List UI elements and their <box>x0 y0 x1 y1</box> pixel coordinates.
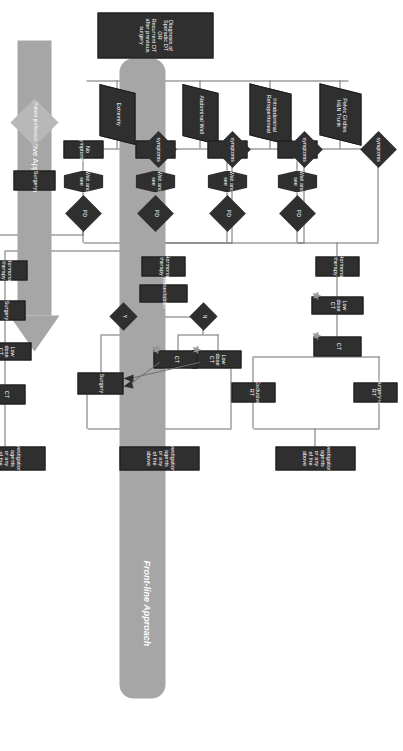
abdwall-pd-label: PD <box>152 209 158 216</box>
abdwall-low-dose-ct-label: Low dose CT <box>0 344 14 358</box>
star-icon-intra-ct: ★ <box>150 344 161 354</box>
pelvic-surgery-rt-out <box>378 402 379 428</box>
pelvic-merge-vertical <box>253 428 379 429</box>
intra-y-to-surgery <box>100 334 101 372</box>
extremity-symptoms-label: symptoms <box>155 137 161 161</box>
intra-pd-label: PD <box>224 209 230 216</box>
pelvic-pd-label: PD <box>294 209 300 216</box>
pelvic-surgery-rt-label: Surgery+/-RT <box>369 379 381 405</box>
intra-hormonal-line2: therapy <box>157 257 163 276</box>
site-label-abdominal-wall: Abdominal Wall <box>182 84 218 145</box>
pelvic-branch-up <box>378 356 379 382</box>
abdwall-hormonal-line2: therapy <box>0 261 5 280</box>
pelvic-hormonal-to-lowdose <box>336 276 337 296</box>
abdwall-inv-line2: or any of the above <box>0 448 8 468</box>
abdwall-low-dose-ct-box: Low dose CT <box>0 342 31 360</box>
intra-surgery-box: Surgery <box>77 372 123 394</box>
abdwall-inv-line1: Investigational agents <box>8 440 20 476</box>
intra-surgery-label: Surgery <box>97 373 103 393</box>
pelvic-symptoms-to-line <box>377 162 378 242</box>
intra-no-diamond: N <box>189 302 217 330</box>
root-diagnosis-box: Diagnosis of Sporadic DT OR Recurrent DT… <box>97 12 213 58</box>
intra-wait-and-see-hex: Wait and see <box>207 170 247 192</box>
site-extremity-label: Extremity <box>114 102 120 125</box>
star-icon-intra-low-dose-ct: ★ <box>190 344 201 354</box>
pelvic-hormonal-therapy-box: Hormonal therapy <box>315 256 359 276</box>
abdwall-split-in <box>199 140 200 148</box>
abdwall-ct-box: CT <box>0 384 25 404</box>
pelvic-symptoms-diamond: symptoms <box>360 131 397 168</box>
star-icon-pelvic-low-dose-ct: ★ <box>310 290 321 300</box>
abdwall-lowdose-to-ct <box>4 360 5 384</box>
site-pelvic-line2: H&N Trunk <box>334 100 340 127</box>
intra-resectable-box: Resectable? <box>139 284 187 302</box>
star-icon-pelvic-ct: ★ <box>310 330 321 340</box>
surgery-preference-box: Surgery <box>13 170 55 190</box>
intra-hormonal-therapy-box: Hormonal therapy <box>141 256 185 276</box>
extremity-ws-line2: see <box>77 177 83 186</box>
intra-investigational-box: Investigational agents or any of the abo… <box>119 446 199 470</box>
abdwall-ws-line2: see <box>149 177 155 186</box>
site-label-pelvic-girdles: Pelvic Girdles H&N Trunk <box>319 83 361 145</box>
pelvic-pd-diamond: PD <box>279 195 316 232</box>
pelvic-symptoms-label: symptoms <box>375 137 381 161</box>
pelvic-inv-line2: or any of the above <box>300 448 317 468</box>
pelvic-ws-line2: see <box>291 177 297 186</box>
intra-n-branch-vertical <box>178 334 218 335</box>
abdwall-ct-label: CT <box>2 390 8 397</box>
abdwall-surgery-box: Surgery <box>0 300 25 320</box>
intra-n-to-ct <box>177 334 178 350</box>
surgery-preference-label: Surgery <box>31 170 37 190</box>
extremity-wait-and-see-hex: Wait and see <box>63 170 103 192</box>
pelvic-exclusive-rt-box: Exclusive RT <box>231 382 275 402</box>
pelvic-low-dose-ct-label: Low dose CT <box>328 298 345 312</box>
abdwall-investigational-box: Investigational agents or any of the abo… <box>0 446 45 470</box>
abdwall-ct-to-inv <box>4 404 5 446</box>
pelvic-investigational-box: Investigational agents or any of the abo… <box>275 446 355 470</box>
pelvic-exclusive-rt-label: Exclusive RT <box>247 380 259 404</box>
abdwall-surgery-to-lowdose <box>4 320 5 342</box>
intra-ct-to-surgery-arrow <box>117 358 163 394</box>
intra-pd-diamond: PD <box>209 195 246 232</box>
intra-low-dose-ct-label: Low dose CT <box>207 352 224 366</box>
intra-no-label: N <box>200 314 205 318</box>
site-abdwall-label: Abdominal Wall <box>197 95 203 134</box>
site-label-extremity: Extremity <box>99 84 135 145</box>
abdwall-hormonal-therapy-box: Hormonal therapy <box>0 260 27 280</box>
extremity-no-symptoms-box: No symptoms <box>63 140 103 158</box>
intra-resectable-label: Resectable? <box>160 277 166 308</box>
pelvic-branch-down <box>252 356 253 382</box>
pelvic-split-in <box>339 140 340 148</box>
pelvic-hormonal-line2: therapy <box>331 257 337 276</box>
extremity-split-in <box>116 140 117 148</box>
extremity-pd-label: PD <box>80 209 86 216</box>
abdwall-surgery-label: Surgery <box>2 300 8 320</box>
abdwall-symptoms-down <box>155 242 232 243</box>
intra-symptoms-label: symptoms <box>301 137 307 161</box>
front-line-approach-label: Front-line Approach <box>141 560 151 646</box>
abdwall-symptoms-label: symptoms <box>229 137 235 161</box>
intra-ws-line2: see <box>221 177 227 186</box>
intra-n-to-lowdose <box>217 334 218 350</box>
extremity-pd-diamond: PD <box>65 195 102 232</box>
pelvic-symptoms-down <box>297 242 378 243</box>
site-label-intra-abdominal: Intrabdominal Retroperitoneal <box>249 83 291 145</box>
pelvic-inv-line1: Investigational agents <box>318 440 330 476</box>
intra-surgery-out <box>86 394 87 428</box>
pelvic-exclusive-rt-out <box>252 402 253 428</box>
intra-inv-line1: Investigational agents <box>162 440 174 476</box>
intra-split-in <box>269 140 270 148</box>
intra-yes-label: Y <box>120 314 125 317</box>
abdwall-symptoms-diamond: symptoms <box>214 131 251 168</box>
pelvic-surgery-rt-box: Surgery+/-RT <box>353 382 397 402</box>
pelvic-wait-and-see-hex: Wait and see <box>277 170 317 192</box>
root-line-1: Diagnosis of Sporadic DT <box>161 14 173 56</box>
extremity-no-symptoms-label: No symptoms <box>77 136 89 161</box>
site-intra-line2: Retroperitoneal <box>264 94 270 132</box>
intra-inv-line2: or any of the above <box>144 448 161 468</box>
pelvic-lowdose-to-ct <box>336 314 337 336</box>
root-line-3: Recurrent DT after previous surgery <box>138 14 155 56</box>
patient-preference-label: Patient preference <box>32 102 37 141</box>
pelvic-ct-label: CT <box>334 342 340 349</box>
abdwall-hormonal-to-surgery <box>4 280 5 300</box>
